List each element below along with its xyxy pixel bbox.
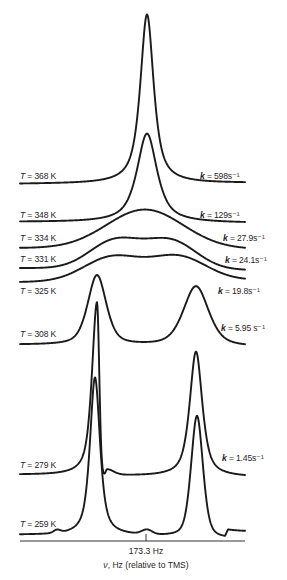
rate-value: = 27.9s⁻¹ xyxy=(228,233,265,243)
rate-constant-label: k = 5.95 s⁻¹ xyxy=(221,323,265,333)
temperature-label: T = 368 K xyxy=(20,171,57,181)
rate-constant-label: k = 598s⁻¹ xyxy=(200,171,240,181)
rate-constant-label: k = 129s⁻¹ xyxy=(200,210,240,220)
temperature-value: = 279 K xyxy=(25,460,56,470)
rate-value: = 1.45s⁻¹ xyxy=(227,453,264,463)
axis-title-text: , Hz (relative to TMS) xyxy=(108,560,189,570)
rate-constant-label: k = 24.1s⁻¹ xyxy=(225,255,267,265)
rate-constant-label: k = 27.9s⁻¹ xyxy=(223,233,265,243)
rate-value: = 129s⁻¹ xyxy=(205,210,240,220)
temperature-label: T = 334 K xyxy=(20,233,57,243)
temperature-value: = 368 K xyxy=(25,171,56,181)
frequency-axis: 173.3 Hz ν, Hz (relative to TMS) xyxy=(20,534,245,570)
temperature-value: = 334 K xyxy=(25,233,56,243)
temperature-value: = 259 K xyxy=(25,519,56,529)
nmr-temperature-spectra-figure: T = 368 K k = 598s⁻¹ T = 348 K k = 129s⁻… xyxy=(0,0,287,580)
temperature-value: = 308 K xyxy=(25,329,56,339)
temperature-label: T = 259 K xyxy=(20,519,57,529)
temperature-value: = 325 K xyxy=(25,286,56,296)
temperature-value: = 331 K xyxy=(25,254,56,264)
axis-title: ν, Hz (relative to TMS) xyxy=(103,560,188,570)
rate-constant-label: k = 19.8s⁻¹ xyxy=(218,286,260,296)
temperature-value: = 348 K xyxy=(25,210,56,220)
temperature-label: T = 308 K xyxy=(20,329,57,339)
temperature-label: T = 279 K xyxy=(20,460,57,470)
temperature-label: T = 325 K xyxy=(20,286,57,296)
rate-value: = 19.8s⁻¹ xyxy=(223,286,260,296)
axis-tick-label: 173.3 Hz xyxy=(129,546,163,556)
spectrum-curve xyxy=(20,14,245,183)
rate-value: = 598s⁻¹ xyxy=(205,171,240,181)
rate-value: = 24.1s⁻¹ xyxy=(230,255,267,265)
temperature-label: T = 331 K xyxy=(20,254,57,264)
rate-value: = 5.95 s⁻¹ xyxy=(226,323,266,333)
rate-constant-label: k = 1.45s⁻¹ xyxy=(222,453,264,463)
spectrum-368K: T = 368 K k = 598s⁻¹ xyxy=(20,14,245,183)
temperature-label: T = 348 K xyxy=(20,210,57,220)
